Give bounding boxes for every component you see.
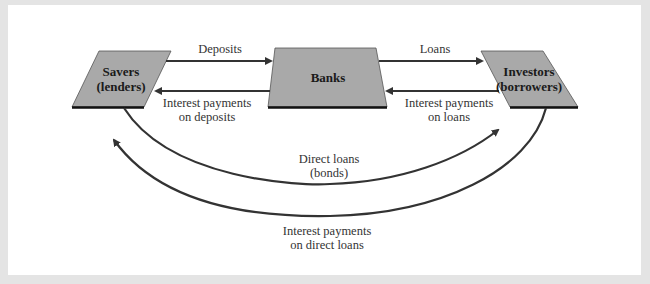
investors-node: Investors (borrowers) <box>496 64 562 94</box>
interest-loans-line1: Interest payments <box>405 96 494 110</box>
interest-loans-line2: on loans <box>405 110 494 124</box>
interest-direct-loans-label: Interest payments on direct loans <box>283 224 372 252</box>
interest-direct-line1: Interest payments <box>283 224 372 238</box>
direct-loans-line1: Direct loans <box>299 152 360 166</box>
interest-direct-line2: on direct loans <box>283 238 372 252</box>
savers-title: Savers <box>96 64 145 79</box>
banks-title: Banks <box>311 70 346 85</box>
interest-deposits-line2: on deposits <box>163 110 252 124</box>
interest-loans-label: Interest payments on loans <box>405 96 494 124</box>
interest-deposits-label: Interest payments on deposits <box>163 96 252 124</box>
investors-subtitle: (borrowers) <box>496 79 562 94</box>
savers-subtitle: (lenders) <box>96 79 145 94</box>
interest-deposits-line1: Interest payments <box>163 96 252 110</box>
savers-node: Savers (lenders) <box>96 64 145 94</box>
loans-label: Loans <box>420 42 451 56</box>
deposits-label: Deposits <box>198 42 242 56</box>
banks-node: Banks <box>311 70 346 85</box>
investors-title: Investors <box>496 64 562 79</box>
direct-loans-label: Direct loans (bonds) <box>299 152 360 180</box>
direct-loans-line2: (bonds) <box>299 166 360 180</box>
